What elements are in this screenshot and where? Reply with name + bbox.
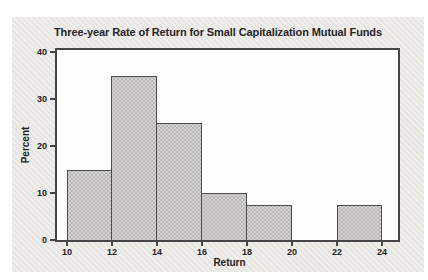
- y-axis-tick: [50, 51, 56, 53]
- x-axis-tick: [156, 241, 158, 246]
- y-axis-tick: [50, 239, 56, 241]
- y-tick-label: 30: [21, 94, 47, 104]
- x-axis-tick: [381, 241, 383, 246]
- y-tick-label: 40: [21, 47, 47, 57]
- x-axis-tick: [201, 241, 203, 246]
- x-axis-tick: [111, 241, 113, 246]
- x-axis-tick: [291, 241, 293, 246]
- y-axis-tick: [50, 192, 56, 194]
- y-axis-tick: [50, 145, 56, 147]
- x-axis-tick: [246, 241, 248, 246]
- x-axis-tick: [66, 241, 68, 246]
- x-axis-tick: [336, 241, 338, 246]
- histogram-bar: [201, 193, 248, 240]
- y-tick-label: 0: [21, 235, 47, 245]
- x-tick-label: 16: [190, 247, 214, 257]
- x-tick-label: 20: [280, 247, 304, 257]
- y-axis-tick: [50, 98, 56, 100]
- x-tick-label: 22: [325, 247, 349, 257]
- x-tick-label: 24: [370, 247, 394, 257]
- chart-panel: Three-year Rate of Return for Small Capi…: [12, 17, 424, 272]
- x-tick-label: 14: [145, 247, 169, 257]
- x-axis-label: Return: [57, 257, 402, 268]
- histogram-bar: [246, 205, 293, 240]
- histogram-bar: [337, 205, 382, 240]
- x-tick-label: 12: [100, 247, 124, 257]
- figure: Three-year Rate of Return for Small Capi…: [0, 0, 428, 280]
- plot-area: 1012141618202224010203040: [55, 48, 400, 242]
- y-tick-label: 20: [21, 141, 47, 151]
- histogram-bar: [67, 170, 112, 241]
- chart-title: Three-year Rate of Return for Small Capi…: [12, 26, 424, 38]
- x-tick-label: 18: [235, 247, 259, 257]
- x-tick-label: 10: [55, 247, 79, 257]
- y-tick-label: 10: [21, 188, 47, 198]
- histogram-bar: [156, 123, 203, 241]
- histogram-bar: [111, 76, 158, 241]
